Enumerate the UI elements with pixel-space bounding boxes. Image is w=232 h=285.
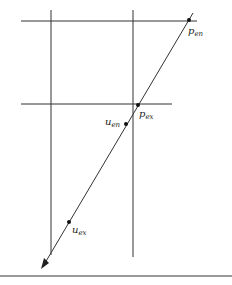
point-p-ex xyxy=(136,103,140,107)
point-u-en xyxy=(124,122,128,126)
arrowhead-icon xyxy=(41,258,49,269)
label-u-en: uen xyxy=(105,116,121,129)
point-u-ex xyxy=(67,220,71,224)
label-u-ex: uex xyxy=(72,224,87,237)
ray-line xyxy=(45,13,193,263)
diagram-canvas: pen pex uen uex xyxy=(0,0,232,285)
label-p-en: pen xyxy=(188,25,204,38)
point-p-en xyxy=(187,18,191,22)
label-p-ex: pex xyxy=(139,108,154,121)
